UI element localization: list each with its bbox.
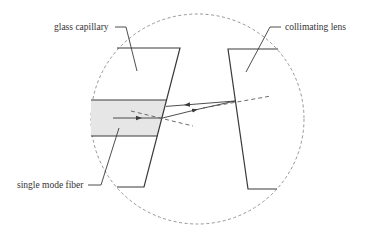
- collimating-lens-outline: [228, 49, 278, 189]
- dashed-normal-lens: [203, 96, 271, 108]
- label-single-mode-fiber: single mode fiber: [17, 180, 84, 190]
- label-glass-capillary: glass capillary: [54, 22, 109, 32]
- ray-outgoing: [163, 110, 196, 118]
- ray-return-cont: [166, 105, 188, 107]
- optical-diagram: glass capillary collimating lens single …: [0, 0, 365, 233]
- label-collimating-lens: collimating lens: [285, 22, 346, 32]
